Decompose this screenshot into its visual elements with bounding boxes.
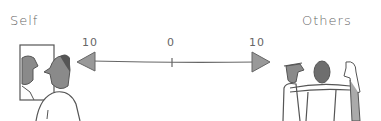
diagram-canvas xyxy=(0,0,381,121)
self-mirror-illustration xyxy=(20,45,80,121)
scale-axis xyxy=(77,52,270,72)
left-arrowhead-icon xyxy=(77,52,95,71)
right-arrowhead-icon xyxy=(252,52,270,72)
others-group-illustration xyxy=(283,61,360,121)
